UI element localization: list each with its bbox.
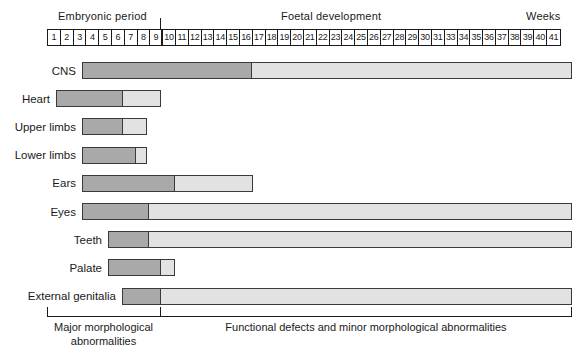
week-cell-22[interactable]: 22 <box>317 30 330 45</box>
week-cell-29[interactable]: 29 <box>406 30 419 45</box>
week-cell-10[interactable]: 10 <box>163 30 176 45</box>
bar-segment-minor <box>123 91 160 106</box>
footer-bracket-tick-left <box>47 307 48 317</box>
bar-segment-minor <box>161 289 571 304</box>
row-label-external-genitalia: External genitalia <box>28 290 116 302</box>
sensitivity-bar[interactable] <box>56 90 161 107</box>
week-cell-26[interactable]: 26 <box>368 30 381 45</box>
week-cell-8[interactable]: 8 <box>138 30 151 45</box>
sensitivity-bar[interactable] <box>82 118 147 135</box>
week-cell-36[interactable]: 36 <box>483 30 496 45</box>
sensitivity-bar[interactable] <box>122 288 572 305</box>
category-row: CNS <box>0 62 587 79</box>
development-timeline-chart: Embryonic period Foetal development Week… <box>0 0 587 359</box>
embryonic-period-label: Embryonic period <box>58 10 147 22</box>
week-cell-41[interactable]: 41 <box>547 30 560 45</box>
row-label-upper-limbs: Upper limbs <box>15 121 76 133</box>
bar-segment-major <box>109 232 149 247</box>
week-cell-18[interactable]: 18 <box>266 30 279 45</box>
week-cell-3[interactable]: 3 <box>74 30 87 45</box>
sensitivity-bar[interactable] <box>108 259 175 276</box>
week-cell-2[interactable]: 2 <box>61 30 74 45</box>
major-abnormalities-legend-label: Major morphological abnormalities <box>47 320 160 348</box>
week-cell-15[interactable]: 15 <box>227 30 240 45</box>
category-row: Upper limbs <box>0 118 587 135</box>
sensitivity-bar[interactable] <box>82 175 253 192</box>
footer-bracket-tick-right <box>571 307 572 317</box>
week-cell-35[interactable]: 35 <box>470 30 483 45</box>
bar-segment-minor <box>161 260 174 275</box>
bar-segment-major <box>57 91 123 106</box>
week-cell-20[interactable]: 20 <box>291 30 304 45</box>
bar-segment-minor <box>123 119 146 134</box>
week-cell-1[interactable]: 1 <box>48 30 61 45</box>
week-cell-27[interactable]: 27 <box>381 30 394 45</box>
week-cell-28[interactable]: 28 <box>394 30 407 45</box>
row-label-palate: Palate <box>69 262 102 274</box>
week-cell-5[interactable]: 5 <box>99 30 112 45</box>
bar-segment-major <box>83 148 136 163</box>
bar-segment-minor <box>149 204 571 219</box>
sensitivity-bar[interactable] <box>108 231 572 248</box>
footer-bracket-line <box>47 316 572 317</box>
category-row: Teeth <box>0 231 587 248</box>
row-label-heart: Heart <box>22 93 50 105</box>
week-cell-37[interactable]: 37 <box>496 30 509 45</box>
footer-bracket-tick-middle <box>160 307 161 317</box>
week-cell-14[interactable]: 14 <box>214 30 227 45</box>
bar-segment-major <box>83 204 149 219</box>
row-label-cns: CNS <box>52 65 76 77</box>
row-label-lower-limbs: Lower limbs <box>15 149 76 161</box>
bar-segment-major <box>83 63 252 78</box>
row-label-ears: Ears <box>52 177 76 189</box>
week-cell-38[interactable]: 38 <box>509 30 522 45</box>
bar-segment-major <box>83 119 123 134</box>
row-label-teeth: Teeth <box>74 234 102 246</box>
bar-segment-minor <box>252 63 571 78</box>
week-cell-12[interactable]: 12 <box>189 30 202 45</box>
week-cell-9[interactable]: 9 <box>150 30 163 45</box>
sensitivity-bar[interactable] <box>82 147 147 164</box>
week-cell-30[interactable]: 30 <box>419 30 432 45</box>
category-row: Ears <box>0 175 587 192</box>
week-cell-33[interactable]: 33 <box>445 30 458 45</box>
week-cell-6[interactable]: 6 <box>112 30 125 45</box>
week-cell-11[interactable]: 11 <box>176 30 189 45</box>
category-row: Lower limbs <box>0 147 587 164</box>
sensitivity-bar[interactable] <box>82 203 572 220</box>
week-cell-13[interactable]: 13 <box>202 30 215 45</box>
bar-segment-major <box>123 289 161 304</box>
week-cell-40[interactable]: 40 <box>534 30 547 45</box>
week-cell-17[interactable]: 17 <box>253 30 266 45</box>
category-row: Eyes <box>0 203 587 220</box>
functional-defects-legend-label: Functional defects and minor morphologic… <box>160 320 572 334</box>
sensitivity-bar[interactable] <box>82 62 572 79</box>
week-cell-24[interactable]: 24 <box>342 30 355 45</box>
week-cell-4[interactable]: 4 <box>86 30 99 45</box>
bar-segment-major <box>109 260 161 275</box>
week-cell-21[interactable]: 21 <box>304 30 317 45</box>
week-cell-23[interactable]: 23 <box>330 30 343 45</box>
foetal-development-label: Foetal development <box>281 10 381 22</box>
weeks-axis-label: Weeks <box>526 10 560 22</box>
bar-segment-major <box>83 176 175 191</box>
week-scale-axis: 1234567891011121314151617181920212223242… <box>47 29 561 46</box>
week-cell-19[interactable]: 19 <box>278 30 291 45</box>
week-cell-7[interactable]: 7 <box>125 30 138 45</box>
bar-segment-minor <box>175 176 252 191</box>
week-cell-25[interactable]: 25 <box>355 30 368 45</box>
week-cell-34[interactable]: 34 <box>458 30 471 45</box>
category-row: Heart <box>0 90 587 107</box>
bar-segment-minor <box>136 148 146 163</box>
category-row: Palate <box>0 259 587 276</box>
category-row: External genitalia <box>0 288 587 305</box>
week-cell-31[interactable]: 31 <box>432 30 445 45</box>
row-label-eyes: Eyes <box>50 206 76 218</box>
week-cell-39[interactable]: 39 <box>521 30 534 45</box>
bar-segment-minor <box>149 232 571 247</box>
week-cell-16[interactable]: 16 <box>240 30 253 45</box>
